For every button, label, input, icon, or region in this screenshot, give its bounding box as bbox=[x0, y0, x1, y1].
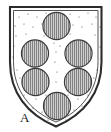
roundel-charge bbox=[21, 40, 48, 67]
field-stipple-dot bbox=[16, 69, 17, 70]
field-stipple-dot bbox=[99, 46, 100, 47]
field-stipple-dot bbox=[23, 94, 24, 95]
field-stipple-dot bbox=[94, 34, 95, 35]
field-stipple-dot bbox=[59, 45, 60, 46]
field-stipple-dot bbox=[72, 24, 73, 25]
field-stipple-dot bbox=[69, 33, 70, 34]
roundel-body bbox=[43, 92, 70, 119]
field-stipple-dot bbox=[81, 26, 82, 27]
roundel-charge bbox=[65, 40, 92, 67]
roundel-body bbox=[43, 12, 70, 39]
roundel-body bbox=[21, 40, 48, 67]
field-stipple-dot bbox=[14, 25, 15, 26]
field-stipple-dot bbox=[87, 12, 88, 13]
field-stipple-dot bbox=[18, 16, 19, 17]
field-stipple-dot bbox=[78, 16, 79, 17]
roundel-charge bbox=[43, 12, 70, 39]
field-stipple-dot bbox=[53, 42, 54, 43]
field-stipple-dot bbox=[45, 12, 46, 13]
figure-label: A bbox=[20, 110, 30, 125]
field-stipple-dot bbox=[41, 23, 42, 24]
roundel-body bbox=[22, 68, 49, 95]
field-stipple-dot bbox=[55, 81, 56, 82]
figure-root: A bbox=[0, 0, 111, 132]
field-stipple-dot bbox=[23, 23, 24, 24]
field-stipple-dot bbox=[69, 13, 70, 14]
field-stipple-dot bbox=[67, 94, 68, 95]
field-stipple-dot bbox=[15, 35, 16, 36]
field-stipple-dot bbox=[73, 109, 74, 110]
field-stipple-dot bbox=[99, 26, 100, 27]
roundel-charge bbox=[64, 68, 91, 95]
roundel-body bbox=[64, 68, 91, 95]
field-stipple-dot bbox=[77, 98, 78, 99]
coat-of-arms-illustration: A bbox=[0, 0, 111, 132]
field-stipple-dot bbox=[25, 33, 26, 34]
field-stipple-dot bbox=[43, 35, 44, 36]
field-stipple-dot bbox=[19, 77, 20, 78]
field-stipple-dot bbox=[45, 94, 46, 95]
field-stipple-dot bbox=[81, 105, 82, 106]
roundel-charge bbox=[22, 68, 49, 95]
field-stipple-dot bbox=[54, 61, 55, 62]
roundel-charge bbox=[43, 92, 70, 119]
field-stipple-dot bbox=[36, 16, 37, 17]
field-stipple-dot bbox=[47, 119, 48, 120]
field-stipple-dot bbox=[32, 26, 33, 27]
field-stipple-dot bbox=[93, 77, 94, 78]
field-stipple-dot bbox=[91, 23, 92, 24]
field-stipple-dot bbox=[95, 16, 96, 17]
field-stipple-dot bbox=[55, 51, 56, 52]
field-stipple-dot bbox=[56, 71, 57, 72]
field-stipple-dot bbox=[27, 13, 28, 14]
field-stipple-dot bbox=[41, 111, 42, 112]
field-stipple-dot bbox=[35, 98, 36, 99]
roundel-body bbox=[65, 40, 92, 67]
